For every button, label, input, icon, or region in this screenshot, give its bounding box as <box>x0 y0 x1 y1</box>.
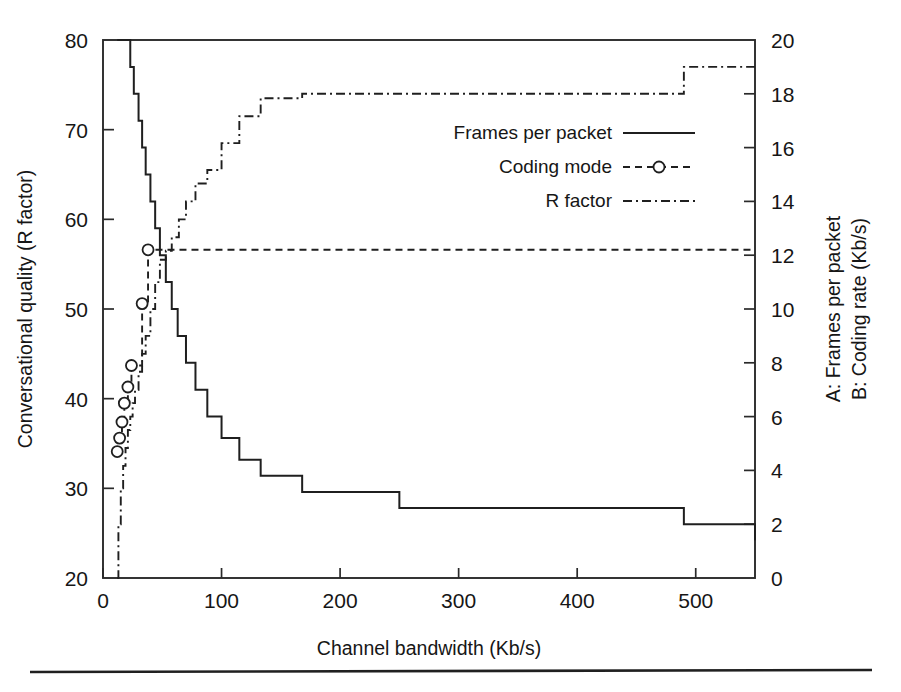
chart-canvas: 0100200300400500 20304050607080 02468101… <box>0 0 901 692</box>
x-tick-label: 400 <box>560 589 595 612</box>
y-axis-left-tick-labels: 20304050607080 <box>65 29 88 590</box>
legend-label-r-factor: R factor <box>545 190 612 211</box>
legend-marker-coding-mode <box>654 162 665 173</box>
x-axis-title: Channel bandwidth (Kb/s) <box>317 637 541 659</box>
series-marker-coding-mode <box>116 416 127 427</box>
y2-tick-label: 6 <box>771 406 783 429</box>
y-axis-right-title-a: A: Frames per packet <box>822 215 844 402</box>
x-tick-label: 500 <box>678 589 713 612</box>
y2-tick-label: 20 <box>771 29 794 52</box>
y2-tick-label: 8 <box>771 352 783 375</box>
page-separator-rule <box>30 670 872 672</box>
legend-label-frames-per-packet: Frames per packet <box>454 122 613 143</box>
x-axis-tick-labels: 0100200300400500 <box>97 589 713 612</box>
y2-tick-label: 12 <box>771 244 794 267</box>
y-tick-label: 80 <box>65 29 88 52</box>
series-marker-coding-mode <box>126 360 137 371</box>
x-tick-label: 0 <box>97 589 109 612</box>
y2-tick-label: 18 <box>771 83 794 106</box>
y-axis-right-title-b: B: Coding rate (Kb/s) <box>848 218 870 400</box>
y-axis-left-title: Conversational quality (R factor) <box>14 170 36 449</box>
series-line-frames-per-packet <box>117 40 755 540</box>
y-axis-left-ticks <box>103 130 114 489</box>
y-axis-right-tick-labels: 02468101214161820 <box>771 29 795 590</box>
series-line-coding-mode <box>117 250 755 452</box>
y-axis-right-ticks <box>744 94 755 524</box>
plot-frame <box>103 40 755 578</box>
y2-tick-label: 10 <box>771 298 794 321</box>
y-tick-label: 40 <box>65 388 88 411</box>
x-tick-label: 200 <box>323 589 358 612</box>
y-tick-label: 70 <box>65 119 88 142</box>
series-marker-coding-mode <box>143 244 154 255</box>
series-marker-coding-mode <box>119 398 130 409</box>
series-line-r-factor <box>117 67 755 578</box>
x-tick-label: 300 <box>441 589 476 612</box>
series-marker-coding-mode <box>114 433 125 444</box>
y2-tick-label: 4 <box>771 459 783 482</box>
series-marker-coding-mode <box>122 382 133 393</box>
figure-container: 0100200300400500 20304050607080 02468101… <box>0 0 901 692</box>
y2-tick-label: 0 <box>771 567 783 590</box>
x-axis-ticks <box>103 568 696 578</box>
x-tick-label: 100 <box>204 589 239 612</box>
y2-tick-label: 14 <box>771 190 795 213</box>
chart-legend: Frames per packetCoding modeR factor <box>454 122 695 211</box>
y-tick-label: 30 <box>65 477 88 500</box>
series-marker-coding-mode <box>137 298 148 309</box>
y-tick-label: 60 <box>65 208 88 231</box>
y2-tick-label: 16 <box>771 137 794 160</box>
y-tick-label: 20 <box>65 567 88 590</box>
y2-tick-label: 2 <box>771 513 783 536</box>
y-tick-label: 50 <box>65 298 88 321</box>
series-marker-coding-mode <box>112 446 123 457</box>
legend-label-coding-mode: Coding mode <box>499 156 612 177</box>
data-series-group <box>117 40 755 578</box>
